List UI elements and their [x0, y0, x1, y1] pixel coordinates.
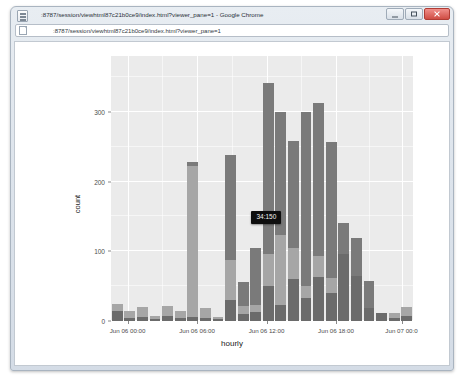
x-axis-tick-label: Jun 06 12:00 [249, 327, 285, 334]
x-axis-label: hourly [221, 339, 243, 348]
maximize-button[interactable] [405, 8, 423, 20]
close-button[interactable] [424, 8, 450, 20]
y-axis-tick-mark [108, 321, 111, 322]
bar-segment [326, 142, 337, 278]
x-axis-tick-label: Jun 07 00:0 [385, 327, 417, 334]
x-axis-tick-mark [336, 321, 337, 324]
bar-segment [389, 318, 400, 321]
bar[interactable] [263, 83, 274, 321]
x-axis-tick-label: Jun 06 06:00 [179, 327, 215, 334]
bar[interactable] [326, 142, 337, 321]
bar-segment [275, 305, 286, 321]
bar-segment [112, 311, 123, 321]
bar-segment [301, 298, 312, 321]
bar-segment [238, 282, 249, 306]
bar-segment [351, 276, 362, 321]
bar-segment [250, 312, 261, 321]
bar-segment [351, 238, 362, 276]
bar[interactable] [401, 307, 412, 321]
url-text: :8787/session/viewhtml87c21b0ce9/index.h… [53, 28, 221, 34]
bar[interactable] [162, 306, 173, 321]
bar-segment [288, 141, 299, 248]
chart-tooltip: 34:150 [251, 211, 281, 224]
bar-segment [238, 306, 249, 314]
bar-segment [200, 308, 211, 318]
page-icon [19, 26, 27, 35]
bar[interactable] [376, 313, 387, 321]
bar-segment [112, 304, 123, 312]
x-axis-tick-label: Jun 06 18:00 [318, 327, 354, 334]
y-axis-tick-label: 100 [94, 248, 105, 255]
y-axis-tick-label: 0 [101, 318, 105, 325]
bar[interactable] [200, 308, 211, 321]
bar-segment [301, 286, 312, 298]
plot-panel [111, 56, 413, 321]
bar-segment [225, 260, 236, 300]
bar-segment [263, 83, 274, 255]
bar-chart: 0100200300 count Jun 06 00:00Jun 06 06:0… [15, 42, 449, 365]
bar[interactable] [389, 313, 400, 321]
bar-series [111, 56, 413, 321]
title-bar: :8787/session/viewhtml87c21b0ce9/index.h… [11, 7, 453, 24]
bar-segment [401, 316, 412, 321]
bar-segment [338, 223, 349, 254]
bar-segment [364, 281, 375, 309]
bar-segment [301, 112, 312, 286]
bar-segment [313, 256, 324, 277]
x-axis-tick-mark [267, 321, 268, 324]
bar-segment [250, 305, 261, 312]
bar-segment [326, 293, 337, 321]
bar-segment [288, 248, 299, 279]
bar[interactable] [351, 238, 362, 321]
y-axis-tick-mark [108, 251, 111, 252]
bar-segment [275, 235, 286, 305]
bar-segment [200, 318, 211, 321]
page-favicon-icon [17, 10, 28, 22]
bar-segment [313, 103, 324, 256]
address-bar[interactable]: :8787/session/viewhtml87c21b0ce9/index.h… [15, 24, 449, 37]
bar[interactable] [338, 223, 349, 321]
bar-segment [364, 308, 375, 321]
bar[interactable] [175, 311, 186, 321]
bar[interactable] [150, 316, 161, 321]
bar-segment [150, 319, 161, 321]
y-axis-tick-label: 300 [94, 108, 105, 115]
y-axis-label: count [73, 194, 82, 212]
bar[interactable] [112, 304, 123, 321]
page-content: 0100200300 count Jun 06 00:00Jun 06 06:0… [14, 41, 450, 366]
bar[interactable] [238, 282, 249, 321]
bar-segment [213, 319, 224, 321]
bar-segment [238, 314, 249, 321]
bar[interactable] [250, 248, 261, 321]
bar[interactable] [225, 155, 236, 321]
bar[interactable] [213, 317, 224, 321]
bar[interactable] [124, 311, 135, 321]
bar[interactable] [364, 281, 375, 321]
bar-segment [162, 306, 173, 316]
minimize-button[interactable] [386, 8, 404, 20]
bar-segment [263, 286, 274, 321]
bar-segment [250, 248, 261, 305]
x-axis-tick-mark [197, 321, 198, 324]
bar[interactable] [301, 112, 312, 321]
browser-window: :8787/session/viewhtml87c21b0ce9/index.h… [10, 6, 454, 371]
bar-segment [162, 316, 173, 321]
bar[interactable] [288, 141, 299, 321]
bar[interactable] [313, 103, 324, 321]
bar-segment [175, 318, 186, 321]
bar[interactable] [137, 307, 148, 321]
bar-segment [175, 311, 186, 318]
bar[interactable] [187, 162, 198, 321]
x-axis-tick-label: Jun 06 00:00 [110, 327, 146, 334]
y-axis-tick-label: 200 [94, 178, 105, 185]
bar-segment [187, 166, 198, 317]
bar-segment [137, 317, 148, 321]
browser-toolbar: :8787/session/viewhtml87c21b0ce9/index.h… [13, 24, 451, 39]
bar-segment [124, 318, 135, 321]
y-axis-tick-mark [108, 111, 111, 112]
bar-segment [338, 254, 349, 321]
bar-segment [401, 307, 412, 316]
window-title: :8787/session/viewhtml87c21b0ce9/index.h… [41, 9, 373, 21]
bar-segment [376, 313, 387, 321]
bar-segment [225, 155, 236, 260]
